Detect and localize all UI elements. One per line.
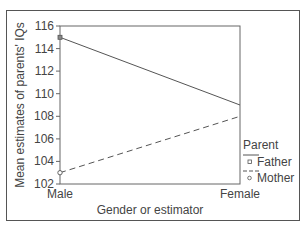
legend-title: Parent: [243, 138, 279, 152]
y-tick-label: 108: [34, 109, 54, 123]
y-tick-label: 106: [34, 132, 54, 146]
series-father-line: [60, 37, 240, 105]
line-chart: 102 104 106 108 110 112 114 116 Mean est…: [0, 0, 304, 237]
father-marker: [58, 35, 62, 39]
legend-mother-label: Mother: [257, 171, 294, 185]
x-axis-label: Gender or estimator: [97, 203, 204, 217]
y-tick-label: 116: [35, 19, 54, 33]
plot-area: [60, 26, 240, 184]
series-mother-line: [60, 116, 240, 172]
y-axis-label: Mean estimates of parents' IQs: [13, 22, 27, 188]
y-tick-label: 110: [35, 87, 54, 101]
y-tick-label: 112: [35, 64, 54, 78]
y-axis: [56, 26, 60, 184]
y-tick-label: 114: [35, 42, 54, 56]
y-tick-label: 104: [34, 154, 54, 168]
mother-marker: [58, 171, 62, 175]
square-icon: [248, 160, 252, 164]
circle-icon: [248, 176, 252, 180]
legend: Parent Father Mother: [243, 138, 294, 185]
legend-father-label: Father: [257, 155, 292, 169]
x-tick-label-female: Female: [220, 187, 260, 201]
x-tick-label-male: Male: [47, 187, 73, 201]
